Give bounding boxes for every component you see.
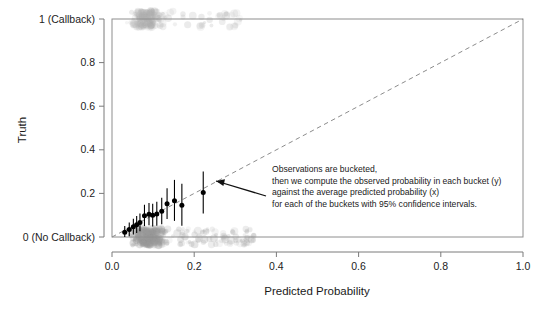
- jitter-point: [136, 14, 144, 22]
- chart-canvas: Observations are bucketed,then we comput…: [0, 0, 548, 314]
- x-tick-label: 0.6: [351, 260, 366, 272]
- jitter-point: [160, 238, 165, 243]
- annotation-line: against the average predicted probabilit…: [272, 187, 439, 197]
- x-tick-label: 0.2: [187, 260, 202, 272]
- jitter-point: [180, 11, 185, 16]
- jitter-point: [188, 240, 192, 244]
- jitter-point: [232, 23, 238, 29]
- x-tick-label: 0.0: [105, 260, 120, 272]
- y-axis-title: Truth: [16, 117, 28, 143]
- jitter-point: [147, 21, 155, 29]
- jitter-point: [165, 242, 169, 246]
- jitter-point: [220, 230, 226, 236]
- jitter-point: [158, 12, 165, 19]
- jitter-point: [161, 230, 166, 235]
- y-tick-label: 0 (No Callback): [23, 231, 95, 243]
- x-tick-label: 1.0: [516, 260, 531, 272]
- jitter-point: [224, 242, 228, 246]
- y-tick-label: 1 (Callback): [39, 13, 95, 25]
- errorbar-point: [137, 220, 142, 225]
- annotation-line: for each of the buckets with 95% confide…: [272, 199, 477, 209]
- jitter-point: [176, 226, 181, 231]
- jitter-point: [173, 22, 177, 26]
- jitter-point: [181, 227, 185, 231]
- jitter-point: [207, 11, 212, 16]
- errorbar-point: [159, 209, 164, 214]
- jitter-point: [195, 237, 201, 243]
- jitter-point: [210, 24, 214, 28]
- errorbar-point: [201, 190, 206, 195]
- jitter-point: [186, 229, 190, 233]
- jitter-point: [152, 12, 158, 18]
- jitter-point: [203, 228, 210, 235]
- jitter-point: [243, 226, 249, 232]
- errorbar-point: [165, 201, 170, 206]
- annotation-line: Observations are bucketed,: [272, 164, 377, 174]
- x-tick-label: 0.4: [269, 260, 284, 272]
- jitter-point: [157, 22, 164, 29]
- jitter-point: [140, 240, 146, 246]
- jitter-point: [230, 229, 235, 234]
- jitter-point: [196, 23, 204, 31]
- y-tick-label: 0.8: [80, 56, 95, 68]
- jitter-point: [244, 237, 249, 242]
- jitter-point: [142, 24, 146, 28]
- jitter-point: [151, 239, 156, 244]
- jitter-point: [184, 21, 191, 28]
- errorbar-point: [154, 211, 159, 216]
- errorbar-point: [179, 203, 184, 208]
- jitter-point: [228, 12, 235, 19]
- y-tick-label: 0.4: [80, 143, 95, 155]
- jitter-point: [151, 230, 156, 235]
- y-tick-label: 0.2: [80, 187, 95, 199]
- y-tick-label: 0.6: [80, 100, 95, 112]
- jitter-point: [189, 12, 197, 20]
- jitter-point: [169, 8, 176, 15]
- jitter-point: [156, 231, 161, 236]
- jitter-point: [226, 23, 233, 30]
- errorbar-point: [172, 198, 177, 203]
- jitter-point: [131, 25, 135, 29]
- x-axis-title: Predicted Probability: [264, 285, 370, 297]
- jitter-point: [206, 17, 212, 23]
- calibration-plot: Observations are bucketed,then we comput…: [0, 0, 548, 314]
- errorbar-point: [142, 213, 147, 218]
- errorbar-point: [127, 227, 132, 232]
- errorbar-point: [122, 230, 127, 235]
- x-tick-label: 0.8: [433, 260, 448, 272]
- jitter-point: [216, 240, 223, 247]
- annotation-line: then we compute the observed probability…: [272, 176, 501, 186]
- jitter-point: [251, 238, 256, 243]
- jitter-point: [217, 13, 221, 17]
- jitter-point: [211, 228, 218, 235]
- jitter-point: [125, 21, 129, 25]
- jitter-point: [177, 242, 183, 248]
